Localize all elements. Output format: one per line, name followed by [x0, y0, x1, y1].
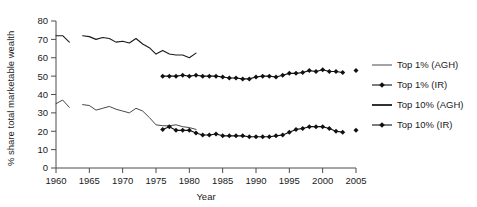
legend-item-3: Top 10% (IR): [372, 119, 452, 130]
series-marker: [254, 134, 259, 139]
series-marker: [274, 133, 279, 138]
series-marker: [320, 67, 325, 72]
series-marker: [340, 130, 345, 135]
y-tick-label: 40: [37, 89, 48, 100]
series-marker: [200, 74, 205, 79]
series-marker: [260, 134, 265, 139]
series-marker: [354, 128, 359, 133]
x-tick-label: 1975: [145, 175, 166, 186]
legend-label: Top 10% (IR): [397, 119, 452, 130]
series-marker: [354, 68, 359, 73]
x-tick-label: 1995: [279, 175, 300, 186]
legend-label: Top 1% (IR): [397, 79, 447, 90]
series-marker: [274, 75, 279, 80]
series-marker: [300, 126, 305, 131]
series-marker: [267, 74, 272, 79]
series-marker: [214, 132, 219, 137]
legend-label: Top 10% (AGH): [397, 99, 464, 110]
series-marker: [307, 124, 312, 129]
series-marker: [214, 74, 219, 79]
series-marker: [194, 73, 199, 78]
series-marker: [294, 71, 299, 76]
series-marker: [227, 75, 232, 80]
series-marker: [314, 124, 319, 129]
series-marker: [320, 124, 325, 129]
series-marker: [160, 74, 165, 79]
series-marker: [220, 133, 225, 138]
series-marker: [287, 130, 292, 135]
series-marker: [287, 71, 292, 76]
legend-swatch-marker-icon: [379, 82, 385, 88]
y-tick-label: 50: [37, 71, 48, 82]
series-marker: [167, 124, 172, 129]
x-axis-group: 1960196519701975198019851990199520002005…: [45, 168, 366, 202]
series-marker: [280, 73, 285, 78]
series-marker: [260, 74, 265, 79]
series-marker: [187, 128, 192, 133]
x-tick-label: 2005: [345, 175, 366, 186]
series-marker: [327, 126, 332, 131]
series-marker: [247, 134, 252, 139]
y-tick-label: 30: [37, 107, 48, 118]
series-line: [56, 36, 69, 42]
legend-item-1: Top 1% (IR): [372, 79, 447, 90]
series-2: [56, 36, 196, 58]
series-line: [56, 100, 69, 107]
y-axis-group: 01020304050607080 % share total marketab…: [5, 15, 56, 173]
series-marker: [194, 131, 199, 136]
series-marker: [207, 132, 212, 137]
series-marker: [220, 75, 225, 80]
series-marker: [300, 70, 305, 75]
series-marker: [187, 74, 192, 79]
series-marker: [340, 70, 345, 75]
x-tick-label: 1970: [112, 175, 133, 186]
series-line: [83, 36, 196, 58]
series-marker: [240, 133, 245, 138]
series-marker: [294, 127, 299, 132]
series-marker: [334, 129, 339, 134]
x-axis-title: Year: [196, 191, 215, 202]
series-marker: [207, 74, 212, 79]
y-tick-label: 70: [37, 34, 48, 45]
series-marker: [167, 74, 172, 79]
y-tick-label: 80: [37, 15, 48, 26]
series-marker: [280, 132, 285, 137]
series-marker: [254, 75, 259, 80]
series-marker: [174, 128, 179, 133]
legend-label: Top 1% (AGH): [397, 59, 458, 70]
series-0: [56, 100, 196, 129]
legend-item-2: Top 10% (AGH): [372, 99, 464, 110]
legend-item-0: Top 1% (AGH): [372, 59, 458, 70]
x-tick-label: 1985: [212, 175, 233, 186]
series-3: [160, 67, 358, 81]
series-marker: [160, 127, 165, 132]
y-tick-label: 20: [37, 126, 48, 137]
series-marker: [227, 133, 232, 138]
series-line: [83, 105, 196, 130]
series-marker: [240, 76, 245, 81]
plot-series-group: [56, 36, 359, 140]
series-marker: [307, 68, 312, 73]
y-tick-label: 10: [37, 144, 48, 155]
series-marker: [327, 69, 332, 74]
series-marker: [234, 133, 239, 138]
chart-legend: Top 1% (AGH)Top 1% (IR)Top 10% (AGH)Top …: [372, 59, 464, 130]
series-marker: [180, 128, 185, 133]
series-marker: [334, 69, 339, 74]
y-tick-label: 0: [43, 162, 48, 173]
x-tick-label: 1980: [179, 175, 200, 186]
x-tick-label: 2000: [312, 175, 333, 186]
series-marker: [247, 76, 252, 81]
series-1: [160, 124, 358, 139]
series-marker: [174, 74, 179, 79]
x-axis-ticks: [56, 168, 356, 173]
x-tick-label: 1965: [79, 175, 100, 186]
series-marker: [180, 73, 185, 78]
x-tick-label: 1990: [245, 175, 266, 186]
series-marker: [314, 69, 319, 74]
series-marker: [267, 134, 272, 139]
series-marker: [234, 75, 239, 80]
wealth-share-line-chart: 01020304050607080 % share total marketab…: [0, 0, 477, 207]
chart-figure: 01020304050607080 % share total marketab…: [0, 0, 477, 207]
x-axis-tick-labels: 1960196519701975198019851990199520002005: [45, 175, 366, 186]
